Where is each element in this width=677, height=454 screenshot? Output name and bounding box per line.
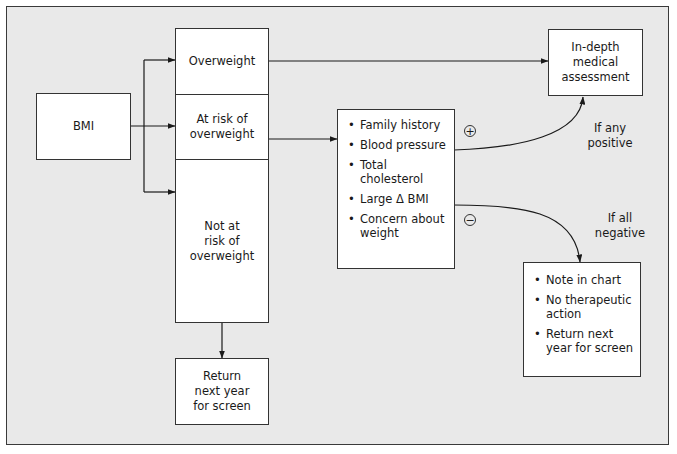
negative-actions-list: Note in chart No therapeutic action Retu…: [532, 273, 634, 355]
negative-actions-box: Note in chart No therapeutic action Retu…: [523, 262, 641, 377]
at-risk-line-1: At risk of: [196, 112, 247, 127]
risk-factor-item: Concern about weight: [346, 212, 448, 240]
negative-action-item: No therapeutic action: [532, 293, 634, 321]
not-at-risk-line-1: Not at: [204, 219, 239, 234]
bmi-label: BMI: [73, 119, 94, 134]
at-risk-box: At risk of overweight: [175, 94, 269, 160]
if-any-positive-line-2: positive: [580, 136, 640, 151]
at-risk-line-2: overweight: [190, 127, 254, 142]
return-line-2: next year: [195, 384, 250, 399]
in-depth-line-3: assessment: [561, 70, 629, 85]
if-all-negative-line-1: If all: [590, 211, 650, 226]
in-depth-line-1: In-depth: [571, 40, 619, 55]
risk-factor-item: Total cholesterol: [346, 158, 448, 186]
if-any-positive-line-1: If any: [580, 121, 640, 136]
overweight-label: Overweight: [189, 54, 255, 69]
bmi-box: BMI: [36, 93, 131, 160]
not-at-risk-line-3: overweight: [190, 249, 254, 264]
not-at-risk-line-2: risk of: [204, 234, 239, 249]
risk-factors-list: Family history Blood pressure Total chol…: [346, 118, 448, 240]
risk-factor-item: Blood pressure: [346, 138, 448, 152]
return-line-1: Return: [203, 369, 241, 384]
risk-factor-item: Family history: [346, 118, 448, 132]
risk-factor-item: Large Δ BMI: [346, 192, 448, 206]
not-at-risk-box: Not at risk of overweight: [175, 159, 269, 323]
risk-factors-box: Family history Blood pressure Total chol…: [337, 109, 455, 269]
in-depth-line-2: medical: [573, 55, 618, 70]
if-all-negative-line-2: negative: [590, 226, 650, 241]
negative-action-item: Return next year for screen: [532, 327, 634, 355]
negative-action-item: Note in chart: [532, 273, 634, 287]
if-all-negative-label: If all negative: [590, 211, 650, 241]
positive-sign-icon: +: [464, 125, 476, 137]
return-screen-box: Return next year for screen: [175, 358, 269, 425]
overweight-box: Overweight: [175, 28, 269, 95]
if-any-positive-label: If any positive: [580, 121, 640, 151]
in-depth-assessment-box: In-depth medical assessment: [548, 29, 643, 96]
return-line-3: for screen: [193, 399, 251, 414]
negative-sign-icon: −: [464, 214, 476, 226]
